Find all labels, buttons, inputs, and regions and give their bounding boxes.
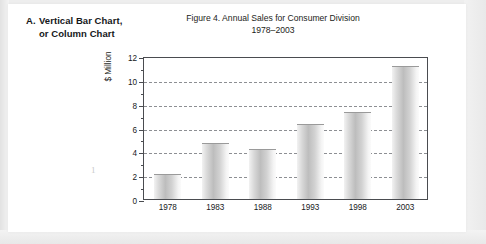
figure-title-line1: Figure 4. Annual Sales for Consumer Divi… <box>186 13 359 23</box>
bar-1988 <box>249 149 276 199</box>
bar-1978 <box>154 174 181 199</box>
gridline-6 <box>144 130 427 131</box>
y-minor-tick-1 <box>141 189 144 190</box>
y-tick-label-10: 10 <box>128 77 137 86</box>
gridline-4 <box>144 153 427 154</box>
page-edge-shadow-bottom <box>0 230 486 244</box>
y-tick-label-0: 0 <box>132 197 137 206</box>
figure-title-line2: 1978–2003 <box>108 24 438 36</box>
y-minor-tick-3 <box>141 165 144 166</box>
y-tick-label-6: 6 <box>132 125 137 134</box>
y-tick-label-4: 4 <box>132 149 137 158</box>
x-tick-label-2003: 2003 <box>382 203 430 212</box>
y-axis-label: $ Million <box>104 37 113 97</box>
gridline-2 <box>144 177 427 178</box>
plot-area: 024681012 197819831988199319982003 <box>143 57 428 200</box>
figure-title: Figure 4. Annual Sales for Consumer Divi… <box>108 12 438 36</box>
x-tick-label-1998: 1998 <box>334 203 382 212</box>
plot-inner: 024681012 197819831988199319982003 <box>144 58 427 199</box>
y-tick-label-12: 12 <box>128 54 137 63</box>
x-tick-label-1993: 1993 <box>287 203 335 212</box>
y-tick-mark-10 <box>139 82 144 83</box>
y-tick-label-2: 2 <box>132 173 137 182</box>
y-tick-mark-8 <box>139 106 144 107</box>
y-tick-mark-4 <box>139 153 144 154</box>
section-letter: A. <box>26 14 36 27</box>
bar-2003 <box>392 66 419 199</box>
y-minor-tick-7 <box>141 118 144 119</box>
y-tick-label-8: 8 <box>132 101 137 110</box>
x-tick-label-1978: 1978 <box>144 203 192 212</box>
bar-1993 <box>297 124 324 199</box>
y-tick-mark-6 <box>139 130 144 131</box>
bar-1983 <box>202 143 229 199</box>
y-tick-mark-0 <box>139 201 144 202</box>
y-minor-tick-5 <box>141 141 144 142</box>
y-minor-tick-11 <box>141 70 144 71</box>
page-edge-shadow-right <box>464 0 486 244</box>
figure-block: Figure 4. Annual Sales for Consumer Divi… <box>108 12 438 224</box>
gridline-8 <box>144 106 427 107</box>
page-number: 1 <box>91 165 96 175</box>
x-tick-label-1983: 1983 <box>192 203 240 212</box>
bar-1998 <box>344 112 371 199</box>
y-minor-tick-9 <box>141 94 144 95</box>
gridline-10 <box>144 82 427 83</box>
x-tick-label-1988: 1988 <box>239 203 287 212</box>
y-tick-mark-2 <box>139 177 144 178</box>
y-tick-mark-12 <box>139 58 144 59</box>
